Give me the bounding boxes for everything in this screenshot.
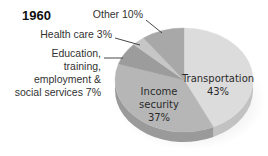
leader-line-other (146, 20, 162, 33)
chart-title: 1960 (22, 8, 51, 23)
label-transportation-line-0: Transportation (181, 73, 254, 84)
label-education-training-employment-social-services-line-1: training, (64, 60, 101, 72)
label-income-security-line-1: security (139, 99, 179, 110)
pie-chart: Transportation43%Incomesecurity37%Educat… (0, 0, 268, 156)
leader-line-health-care (115, 38, 140, 45)
label-income-security-line-2: 37% (148, 112, 170, 123)
label-income-security-line-0: Income (141, 86, 178, 97)
label-transportation-line-1: 43% (207, 86, 229, 97)
label-health-care-line-0: Health care 3% (40, 28, 112, 40)
label-other-line-0: Other 10% (93, 8, 143, 20)
label-education-training-employment-social-services-line-3: social services 7% (15, 86, 101, 98)
label-education-training-employment-social-services-line-2: employment & (34, 73, 101, 85)
label-education-training-employment-social-services-line-0: Education, (51, 47, 101, 59)
